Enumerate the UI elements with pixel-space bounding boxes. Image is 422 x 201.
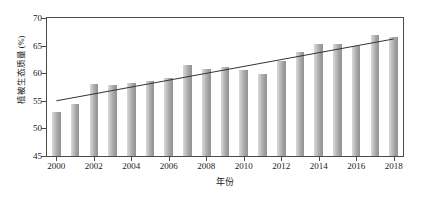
x-tick-label: 2010 — [224, 161, 264, 172]
bar — [239, 70, 248, 156]
x-tick-label: 2016 — [336, 161, 376, 172]
x-tick-mark — [356, 157, 357, 161]
bar — [71, 104, 80, 156]
y-tick-label: 55 — [0, 96, 42, 106]
x-tick-mark — [169, 157, 170, 161]
bar — [164, 78, 173, 156]
x-tick-label: 2012 — [261, 161, 301, 172]
x-tick-label: 2018 — [374, 161, 414, 172]
vegetation-quality-bar-chart: 植被生态质量 (%) 455055606570 2000200220042006… — [0, 0, 422, 201]
x-tick-mark — [394, 157, 395, 161]
x-tick-mark — [206, 157, 207, 161]
plot-inner-surface — [47, 18, 403, 156]
x-tick-mark — [56, 157, 57, 161]
bar — [371, 35, 380, 156]
bar — [296, 52, 305, 156]
y-tick-label: 65 — [0, 41, 42, 51]
y-tick-label: 60 — [0, 68, 42, 78]
y-tick-label: 50 — [0, 123, 42, 133]
plot-area — [46, 17, 404, 157]
bar — [183, 65, 192, 156]
bar — [90, 84, 99, 156]
x-tick-mark — [94, 157, 95, 161]
x-tick-label: 2002 — [74, 161, 114, 172]
bar — [146, 81, 155, 156]
y-tick-label: 45 — [0, 151, 42, 161]
bar — [127, 83, 136, 156]
x-tick-label: 2014 — [299, 161, 339, 172]
bar — [258, 74, 267, 156]
x-tick-mark — [131, 157, 132, 161]
bar — [333, 44, 342, 156]
x-tick-label: 2000 — [36, 161, 76, 172]
bar — [221, 67, 230, 156]
x-tick-label: 2006 — [149, 161, 189, 172]
bar — [314, 44, 323, 156]
y-tick-label: 70 — [0, 13, 42, 23]
bar — [108, 85, 117, 156]
x-tick-label: 2008 — [186, 161, 226, 172]
bar — [202, 69, 211, 156]
bar — [389, 37, 398, 156]
bar — [352, 46, 361, 156]
bar — [52, 112, 61, 156]
x-tick-mark — [244, 157, 245, 161]
x-axis-title: 年份 — [46, 175, 404, 188]
x-tick-label: 2004 — [111, 161, 151, 172]
x-tick-mark — [281, 157, 282, 161]
x-tick-mark — [319, 157, 320, 161]
bar — [277, 61, 286, 156]
